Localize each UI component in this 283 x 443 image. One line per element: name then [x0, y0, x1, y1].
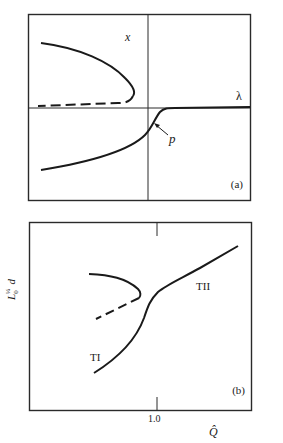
panel-b-y-label-main: L — [5, 294, 17, 300]
panel-b-frame — [30, 223, 252, 411]
panel-b-y-label-sub: 0 — [12, 290, 20, 294]
panel-a-upper-unstable-curve — [38, 96, 133, 106]
panel-b-main-curve — [94, 246, 238, 373]
panel-b-branch-label-tii: TII — [196, 280, 210, 292]
panel-b-y-axis-label: L¼0 d — [4, 279, 20, 300]
panel-a-tag: (a) — [231, 178, 243, 190]
panel-a-point-p-label: p — [169, 131, 176, 147]
panel-b-fold-unstable-curve — [96, 298, 139, 319]
panel-b-x-tick-label: 1.0 — [148, 413, 161, 424]
panel-b-tag: (b) — [232, 384, 245, 396]
panel-a-y-axis-label: x — [125, 30, 130, 45]
panel-a-x-axis-label: λ — [236, 89, 242, 104]
figure-canvas — [0, 0, 283, 443]
panel-b-x-axis-label: Q̂ — [209, 425, 218, 440]
panel-b-y-label-sup: ¼ — [4, 289, 12, 294]
panel-a — [29, 15, 251, 201]
panel-b-branch-label-ti: TI — [90, 351, 100, 363]
panel-b-fold-stable-curve — [89, 274, 140, 298]
panel-b-y-label-var: d — [5, 279, 17, 285]
panel-a-upper-stable-curve — [41, 43, 134, 96]
panel-b — [30, 223, 252, 411]
panel-a-lower-curve — [41, 107, 250, 170]
